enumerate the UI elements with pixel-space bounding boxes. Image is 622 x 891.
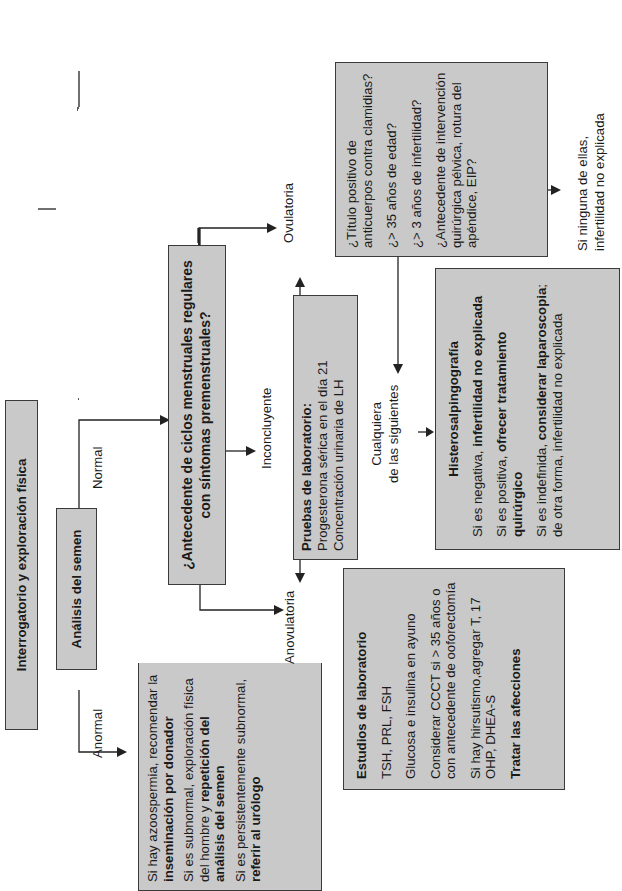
estudios-title: Estudios de laboratorio — [354, 579, 370, 779]
histerosalpingografia-box: Histerosalpingografía Si es negativa, in… — [435, 268, 620, 550]
histerosalpingografia-title: Histerosalpingografía — [446, 281, 462, 537]
label-si-ninguna: Si ninguna de ellas, infertilidad no exp… — [574, 113, 608, 251]
hsg-item-indefinida: Si es indefinida, considerar laparoscopi… — [534, 281, 566, 537]
infertility-flowchart: Interrogatorio y exploración física Anál… — [0, 0, 622, 891]
factores-riesgo-box: ¿Título positivo de anticuerpos contra c… — [335, 62, 548, 257]
analisis-semen-title: Análisis del semen — [69, 530, 84, 649]
ciclos-menstruales-box: ¿Antecedente de ciclos menstruales regul… — [168, 245, 226, 585]
label-anormal: Anormal — [90, 709, 105, 758]
pruebas-laboratorio-title: Pruebas de laboratorio: — [299, 304, 315, 551]
anormal-item-persistente: Si es persistentemente subnormal, referi… — [233, 671, 264, 882]
interrogatorio-title: Interrogatorio y exploración física — [14, 459, 29, 672]
hsg-item-positiva: Si es positiva, ofrecer tratamiento quir… — [494, 281, 526, 537]
estudios-line-ccct: Considerar CCCT si > 35 años o con antec… — [428, 579, 459, 779]
pruebas-laboratorio-box: Pruebas de laboratorio: Progesterona sér… — [293, 295, 358, 560]
pruebas-line-lh: Concentración urinaria de LH — [331, 304, 347, 551]
ciclos-menstruales-question: ¿Antecedente de ciclos menstruales regul… — [179, 260, 213, 570]
label-anovulatoria: Anovulatoria — [282, 591, 297, 664]
analisis-semen-box: Análisis del semen — [56, 508, 97, 670]
label-ovulatoria: Ovulatoria — [281, 183, 296, 243]
label-inconcluyente: Inconcluyente — [259, 388, 274, 469]
anormal-item-azoospermia: Si hay azoospermia, recomendar la insemi… — [145, 671, 176, 882]
label-cualquiera: Cualquiera de las siguientes — [368, 385, 402, 483]
factor-clamidias: ¿Título positivo de anticuerpos contra c… — [344, 71, 375, 248]
estudios-line-hirsutismo: Si hay hirsutismo,agregar T, 17 OHP, DHE… — [468, 579, 499, 779]
factor-anos-infertilidad: ¿> 3 años de infertilidad? — [409, 71, 425, 248]
estudios-laboratorio-box: Estudios de laboratorio TSH, PRL, FSH Gl… — [343, 568, 565, 790]
hsg-item-negativa: Si es negativa, infertilidad no explicad… — [470, 281, 486, 537]
anormal-item-subnormal: Si es subnormal, exploración física del … — [181, 671, 228, 882]
label-normal: Normal — [90, 447, 105, 490]
interrogatorio-box: Interrogatorio y exploración física — [5, 400, 38, 730]
factor-intervencion: ¿Antecedente de intervención quirúrgica … — [433, 71, 480, 248]
estudios-line-glucosa: Glucosa e insulina en ayuno — [403, 579, 419, 779]
factor-edad: ¿> 35 años de edad? — [384, 71, 400, 248]
estudios-footer-tratar: Tratar las afecciones — [508, 579, 524, 779]
estudios-line-tsh: TSH, PRL, FSH — [379, 579, 395, 779]
anormal-actions-box: Si hay azoospermia, recomendar la insemi… — [138, 663, 322, 891]
pruebas-line-progesterona: Progesterona sérica en el día 21 — [315, 304, 331, 551]
